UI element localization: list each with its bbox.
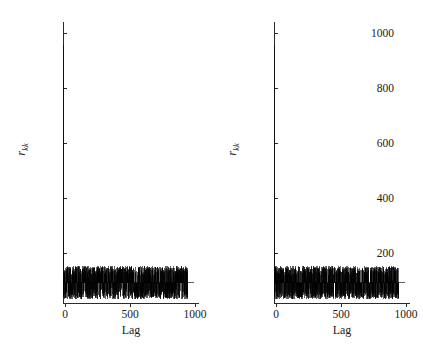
x-tick-mark-1000 xyxy=(406,303,407,307)
x-tick-label-0: 0 xyxy=(273,309,279,321)
figure-container: rkk 1000 800 600 400 200 0 0 500 1000 La… xyxy=(0,0,423,352)
x-axis-title: Lag xyxy=(63,324,199,336)
x-axis-title: Lag xyxy=(274,324,410,336)
plot-area xyxy=(274,26,405,304)
right-panel: rkk 1000 800 600 400 200 0 0 500 1000 La… xyxy=(211,0,422,352)
y-axis-title: rkk xyxy=(15,143,30,155)
x-tick-label-500: 500 xyxy=(121,309,138,321)
plot-area xyxy=(63,26,194,304)
x-tick-mark-1000 xyxy=(195,303,196,307)
y-axis-title-subscript: kk xyxy=(231,143,241,151)
spike-series xyxy=(63,26,194,304)
y-axis-title-symbol: r xyxy=(14,151,28,156)
x-tick-label-1000: 1000 xyxy=(184,309,207,321)
y-axis-title-subscript: kk xyxy=(20,143,30,151)
x-tick-label-1000: 1000 xyxy=(395,309,418,321)
x-tick-label-0: 0 xyxy=(62,309,68,321)
left-panel: rkk 1000 800 600 400 200 0 0 500 1000 La… xyxy=(0,0,211,352)
y-axis-title-symbol: r xyxy=(225,151,239,156)
y-axis-title: rkk xyxy=(226,143,241,155)
x-tick-label-500: 500 xyxy=(332,309,349,321)
spike-series xyxy=(274,26,405,304)
